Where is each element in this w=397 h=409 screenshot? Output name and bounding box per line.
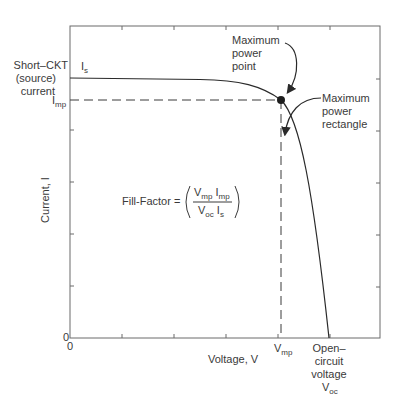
plot-frame [70,26,380,338]
fill-factor-formula: Fill-Factor = Vmp Imp Voc Is [122,186,239,219]
fraction-numerator: Vmp Imp [194,186,230,201]
mpp-label-line3: point [232,60,256,72]
mpr-label-line2: power [322,105,352,117]
max-power-point-marker [277,96,285,104]
is-label: Is [81,60,88,75]
voc-label-line2: circuit [315,355,344,367]
isc-label-line1: Short–CKT [14,59,69,71]
max-power-point-arrow [285,43,297,92]
mpr-label-line1: Maximum [322,92,370,104]
left-paren [186,186,190,218]
fill-factor-lhs: Fill-Factor = [122,195,180,207]
isc-label-line2: (source) [16,72,56,84]
mpp-label-line2: power [232,47,262,59]
mpr-label-line3: rectangle [322,118,367,130]
right-paren [235,186,239,218]
voc-label-line3: voltage [311,368,346,380]
imp-label: Imp [52,94,67,109]
fraction-denominator: Voc Is [198,204,224,219]
iv-curve-diagram: Short–CKT (source) current Is Imp Curren… [0,0,397,409]
y-axis-label: Current, I [39,177,51,223]
axis-ticks [70,26,380,338]
x-axis-label: Voltage, V [208,353,259,365]
voc-symbol: Voc [322,381,338,396]
mpp-label-line1: Maximum [232,34,280,46]
x-zero-label: 0 [67,340,73,352]
isc-label-line3: current [21,85,55,97]
max-power-rectangle-arrow [285,98,321,134]
voc-label-line1: Open– [312,342,346,354]
vmp-label: Vmp [274,342,293,357]
